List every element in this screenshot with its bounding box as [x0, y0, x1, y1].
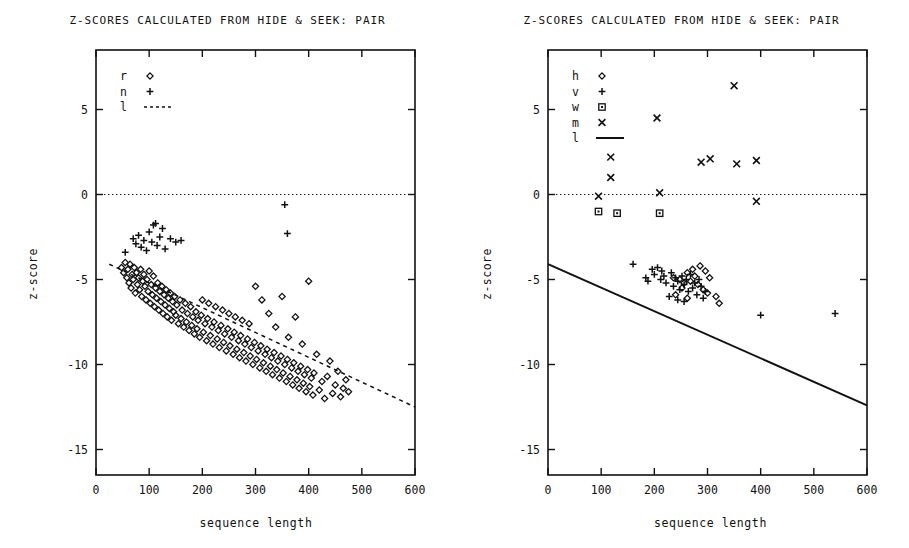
marker-plus: [122, 249, 129, 256]
marker-diamond: [702, 268, 708, 274]
marker-diamond: [260, 360, 266, 366]
marker-diamond: [214, 336, 220, 342]
marker-diamond: [243, 358, 249, 364]
legend-swatch-diamond: [147, 73, 153, 79]
marker-diamond: [273, 324, 279, 330]
marker-diamond: [236, 355, 242, 361]
y-tick-label: 0: [81, 188, 88, 202]
marker-diamond: [226, 310, 232, 316]
marker-plus: [700, 295, 707, 302]
y-tick-label: 5: [533, 103, 540, 117]
marker-diamond: [322, 395, 328, 401]
legend-key-l: l: [120, 100, 127, 114]
marker-diamond: [324, 373, 330, 379]
marker-cross: [707, 155, 714, 162]
marker-diamond: [269, 372, 275, 378]
legend-key-l: l: [572, 131, 579, 145]
marker-diamond: [216, 344, 222, 350]
marker-diamond: [319, 378, 325, 384]
x-tick-label: 500: [803, 483, 824, 497]
legend-swatch-plus: [147, 88, 154, 95]
marker-diamond: [276, 375, 282, 381]
marker-diamond: [335, 368, 341, 374]
marker-plus: [138, 244, 145, 251]
marker-diamond: [274, 367, 280, 373]
marker-diamond: [206, 300, 212, 306]
marker-diamond: [257, 365, 263, 371]
chart-panel-right: Z-SCORES CALCULATED FROM HIDE & SEEK: PA…: [454, 0, 909, 548]
series-w: [595, 208, 663, 216]
marker-diamond: [200, 329, 206, 335]
legend-key-w: w: [572, 100, 579, 114]
marker-diamond: [246, 321, 252, 327]
marker-plus: [140, 237, 147, 244]
marker-cross: [753, 157, 760, 164]
y-tick-label: -15: [519, 443, 540, 457]
legend-key-h: h: [572, 69, 579, 83]
marker-square-center: [598, 211, 600, 213]
plot-area-left: 010020030040050060050-5-10-15rnl: [0, 0, 455, 548]
x-tick-label: 200: [644, 483, 665, 497]
marker-diamond: [227, 343, 233, 349]
marker-diamond: [300, 380, 306, 386]
marker-diamond: [316, 387, 322, 393]
plot-frame: [548, 50, 867, 475]
marker-plus: [156, 234, 163, 241]
x-tick-label: 100: [139, 483, 160, 497]
marker-diamond: [345, 389, 351, 395]
marker-plus: [162, 246, 169, 253]
marker-diamond: [267, 363, 273, 369]
marker-plus: [685, 288, 692, 295]
x-tick-label: 0: [545, 483, 552, 497]
plot-frame: [96, 50, 415, 475]
marker-cross: [753, 198, 760, 205]
marker-plus: [832, 310, 839, 317]
marker-diamond: [213, 304, 219, 310]
marker-square-center: [659, 212, 661, 214]
marker-cross: [607, 174, 614, 181]
marker-plus: [663, 280, 670, 287]
marker-plus: [698, 283, 705, 290]
marker-diamond: [150, 273, 156, 279]
y-tick-label: 5: [81, 103, 88, 117]
marker-square-center: [616, 212, 618, 214]
marker-plus: [670, 283, 677, 290]
marker-diamond: [247, 353, 253, 359]
fit-line-l: [548, 264, 867, 405]
marker-cross: [595, 193, 602, 200]
marker-plus: [657, 276, 664, 283]
legend-swatch-cross: [599, 119, 606, 126]
marker-diamond: [147, 73, 153, 79]
legend-swatch-square: [599, 104, 605, 110]
legend-key-m: m: [572, 116, 579, 130]
marker-diamond: [299, 341, 305, 347]
marker-cross: [654, 115, 661, 122]
marker-diamond: [296, 385, 302, 391]
legend-key-v: v: [572, 85, 579, 99]
marker-cross: [733, 161, 740, 168]
marker-plus: [681, 298, 688, 305]
y-tick-label: -10: [519, 358, 540, 372]
x-tick-label: 600: [405, 483, 426, 497]
marker-diamond: [232, 314, 238, 320]
marker-diamond: [203, 338, 209, 344]
marker-diamond: [283, 378, 289, 384]
marker-plus: [159, 225, 166, 232]
marker-diamond: [280, 370, 286, 376]
y-tick-label: -5: [526, 273, 540, 287]
marker-diamond: [188, 304, 194, 310]
marker-plus: [599, 88, 606, 95]
marker-cross: [731, 82, 738, 89]
legend-swatch-diamond: [599, 73, 605, 79]
marker-diamond: [306, 278, 312, 284]
marker-diamond: [287, 373, 293, 379]
marker-diamond: [234, 346, 240, 352]
x-axis-label-right: sequence length: [548, 516, 873, 530]
marker-diamond: [221, 339, 227, 345]
marker-plus: [702, 288, 709, 295]
marker-diamond: [199, 297, 205, 303]
y-axis-label-right: z-score: [480, 248, 494, 300]
marker-diamond: [329, 390, 335, 396]
marker-diamond: [332, 382, 338, 388]
marker-diamond: [279, 293, 285, 299]
